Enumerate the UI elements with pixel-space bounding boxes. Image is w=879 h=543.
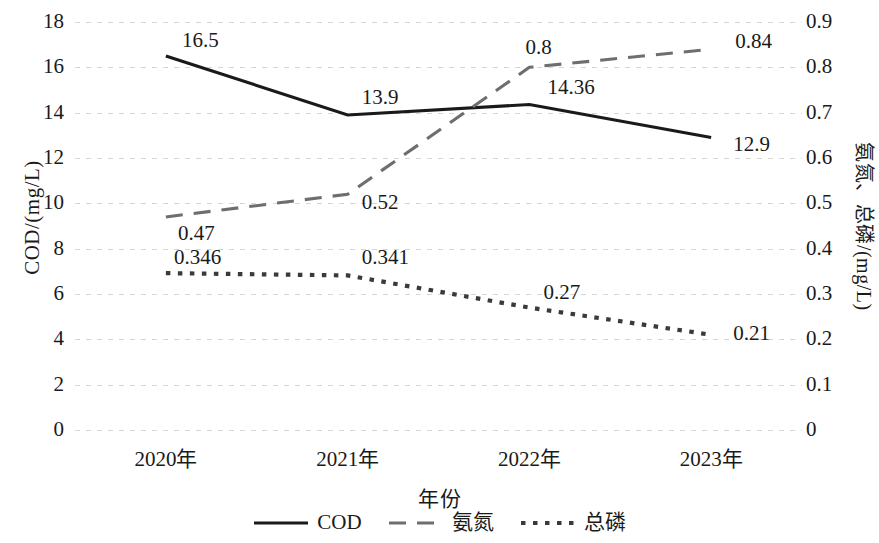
y-axis-left-tick-label: 16 xyxy=(24,56,64,77)
y-axis-right-tick-label: 0.6 xyxy=(806,147,866,168)
y-axis-right-tick-label: 0.7 xyxy=(806,102,866,123)
y-axis-right-tick-label: 0 xyxy=(806,419,866,440)
data-label: 0.346 xyxy=(174,247,221,268)
line-chart: COD/(mg/L) 氨氮、总磷/(mg/L) 年份 1816141210864… xyxy=(0,0,879,543)
legend-key-solid-icon xyxy=(253,518,309,528)
data-label: 0.47 xyxy=(178,223,215,244)
y-axis-right-tick-label: 0.5 xyxy=(806,192,866,213)
y-axis-left-tick-label: 6 xyxy=(24,283,64,304)
y-axis-left-tick-label: 0 xyxy=(24,419,64,440)
legend-label: 总磷 xyxy=(584,512,626,533)
data-label: 0.52 xyxy=(362,192,399,213)
y-axis-right-tick-label: 0.1 xyxy=(806,374,866,395)
gridline xyxy=(75,430,802,431)
x-axis-category-label: 2020年 xyxy=(96,442,236,472)
y-axis-right-tick-label: 0.9 xyxy=(806,11,866,32)
y-axis-right-tick-label: 0.4 xyxy=(806,238,866,259)
plot-area: 16.513.914.3612.90.470.520.80.840.3460.3… xyxy=(75,22,802,430)
data-label: 0.21 xyxy=(733,323,770,344)
data-label: 0.84 xyxy=(735,31,772,52)
y-axis-left-tick-label: 14 xyxy=(24,102,64,123)
legend-item-总磷[interactable]: 总磷 xyxy=(520,512,626,533)
y-axis-right-tick-label: 0.2 xyxy=(806,328,866,349)
series-line-氨氮 xyxy=(166,49,711,217)
x-axis-title: 年份 xyxy=(0,482,879,512)
legend-key-dashed-icon xyxy=(388,518,444,528)
data-label: 14.36 xyxy=(547,77,594,98)
data-label: 0.341 xyxy=(362,247,409,268)
x-axis-category-label: 2023年 xyxy=(641,442,781,472)
y-axis-left-tick-label: 10 xyxy=(24,192,64,213)
y-axis-left-tick-label: 2 xyxy=(24,374,64,395)
series-line-总磷 xyxy=(166,273,711,335)
y-axis-left-tick-label: 4 xyxy=(24,328,64,349)
y-axis-left-tick-label: 8 xyxy=(24,238,64,259)
y-axis-right-tick-label: 0.3 xyxy=(806,283,866,304)
data-label: 16.5 xyxy=(182,30,219,51)
legend-key-dotted-icon xyxy=(520,518,576,528)
y-axis-right-tick-label: 0.8 xyxy=(806,56,866,77)
legend-item-COD[interactable]: COD xyxy=(253,512,361,533)
data-label: 0.27 xyxy=(543,282,580,303)
data-label: 12.9 xyxy=(733,134,770,155)
legend-label: 氨氮 xyxy=(452,512,494,533)
series-line-COD xyxy=(166,56,711,138)
y-axis-left-tick-label: 12 xyxy=(24,147,64,168)
y-axis-left-tick-label: 18 xyxy=(24,11,64,32)
legend: COD氨氮总磷 xyxy=(0,512,879,533)
data-label: 0.8 xyxy=(525,37,551,58)
legend-item-氨氮[interactable]: 氨氮 xyxy=(388,512,494,533)
x-axis-category-label: 2021年 xyxy=(278,442,418,472)
legend-label: COD xyxy=(317,512,361,533)
y-axis-right-title: 氨氮、总磷/(mg/L) xyxy=(851,107,879,347)
x-axis-category-label: 2022年 xyxy=(459,442,599,472)
data-label: 13.9 xyxy=(362,87,399,108)
